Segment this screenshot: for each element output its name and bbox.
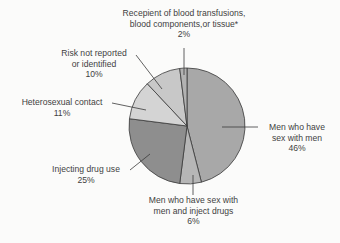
label-blood-line2: blood components,or tissue* — [100, 19, 268, 30]
label-idu: Injecting drug use 25% — [38, 164, 134, 185]
label-risk-pct: 10% — [50, 69, 138, 80]
label-blood-pct: 2% — [100, 29, 268, 40]
label-hetero-pct: 11% — [12, 108, 112, 119]
label-risk-line1: Risk not reported — [50, 48, 138, 59]
label-msm-idu-pct: 6% — [130, 216, 257, 227]
label-blood: Recepient of blood transfusions, blood c… — [100, 8, 268, 40]
label-msm-line2: sex with men — [258, 133, 336, 144]
label-risk-line2: or identified — [50, 59, 138, 70]
label-msm-idu-line2: men and inject drugs — [130, 206, 257, 217]
label-msm: Men who have sex with men 46% — [258, 122, 336, 154]
pie-slices — [129, 68, 245, 184]
label-hetero: Heterosexual contact 11% — [12, 97, 112, 118]
label-idu-pct: 25% — [38, 175, 134, 186]
label-risk: Risk not reported or identified 10% — [50, 48, 138, 80]
label-hetero-line1: Heterosexual contact — [12, 97, 112, 108]
label-blood-line1: Recepient of blood transfusions, — [100, 8, 268, 19]
label-idu-line1: Injecting drug use — [38, 164, 134, 175]
label-msm-pct: 46% — [258, 143, 336, 154]
label-msm-idu: Men who have sex with men and inject dru… — [130, 195, 257, 227]
label-msm-idu-line1: Men who have sex with — [130, 195, 257, 206]
label-msm-line1: Men who have — [258, 122, 336, 133]
pie-slice — [129, 119, 187, 184]
